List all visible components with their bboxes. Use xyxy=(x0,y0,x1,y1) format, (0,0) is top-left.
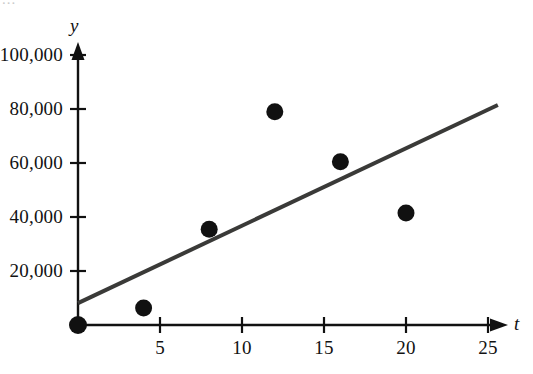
y-tick-label-80000: 80,000 xyxy=(0,98,63,120)
data-point xyxy=(398,204,415,221)
y-tick-label-20000: 20,000 xyxy=(0,260,63,282)
data-point-group xyxy=(69,103,415,334)
y-axis-label: y xyxy=(70,15,78,37)
data-point xyxy=(332,153,349,170)
x-tick-label-25: 25 xyxy=(468,337,508,359)
data-point xyxy=(201,221,218,238)
y-tick-label-100000: 100,000 xyxy=(0,44,63,66)
x-tick-label-20: 20 xyxy=(386,337,426,359)
x-tick-label-10: 10 xyxy=(222,337,262,359)
x-tick-label-5: 5 xyxy=(140,337,180,359)
scatter-plot-figure: ... xyxy=(0,0,533,374)
data-point xyxy=(69,316,87,334)
y-tick-label-40000: 40,000 xyxy=(0,206,63,228)
y-tick-label-60000: 60,000 xyxy=(0,152,63,174)
plot-canvas xyxy=(0,0,533,374)
y-axis xyxy=(72,42,85,325)
x-tick-label-15: 15 xyxy=(304,337,344,359)
x-axis-label: t xyxy=(514,313,519,335)
data-point xyxy=(135,299,152,316)
x-axis xyxy=(78,319,508,332)
regression-line xyxy=(78,105,498,303)
data-point xyxy=(266,103,283,120)
